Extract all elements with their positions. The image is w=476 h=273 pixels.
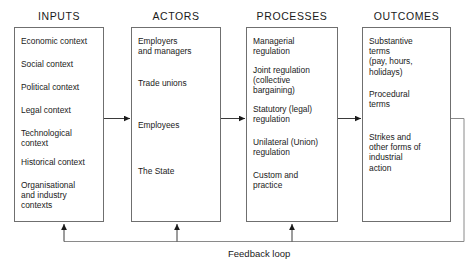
list-item: Technological context <box>21 128 105 148</box>
list-item: Managerial regulation <box>253 36 341 56</box>
list-item: Unilateral (Union) regulation <box>253 137 341 157</box>
diagram-canvas: INPUTS Economic context Social context P… <box>0 0 476 273</box>
column-items-outcomes: Substantive terms (pay, hours, holidays)… <box>362 27 451 222</box>
list-item: Strikes and other forms of industrial ac… <box>369 132 453 173</box>
column-header-inputs: INPUTS <box>14 10 104 22</box>
list-item: Employees <box>138 120 222 130</box>
list-item: Organisational and industry contexts <box>21 180 105 211</box>
list-item: Substantive terms (pay, hours, holidays) <box>369 36 453 77</box>
column-header-processes: PROCESSES <box>246 10 338 22</box>
column-items-processes: Managerial regulation Joint regulation (… <box>246 27 338 222</box>
list-item: Statutory (legal) regulation <box>253 104 341 124</box>
column-header-outcomes: OUTCOMES <box>362 10 451 22</box>
list-item: Joint regulation (collective bargaining) <box>253 65 341 96</box>
column-items-inputs: Economic context Social context Politica… <box>14 27 104 222</box>
list-item: Political context <box>21 82 105 92</box>
feedback-loop-label: Feedback loop <box>228 248 290 259</box>
list-item: Trade unions <box>138 78 222 88</box>
column-header-actors: ACTORS <box>131 10 221 22</box>
list-item: Historical context <box>21 157 105 167</box>
column-items-actors: Employers and managers Trade unions Empl… <box>131 27 221 222</box>
list-item: Procedural terms <box>369 89 453 109</box>
list-item: Employers and managers <box>138 36 222 56</box>
list-item: The State <box>138 166 222 176</box>
list-item: Custom and practice <box>253 170 341 190</box>
list-item: Legal context <box>21 105 105 115</box>
list-item: Social context <box>21 59 105 69</box>
list-item: Economic context <box>21 36 105 46</box>
